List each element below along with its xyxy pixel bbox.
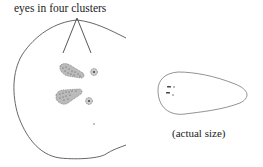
actual-size-caption: (actual size) [172, 127, 225, 139]
diagram-drawing [0, 0, 263, 167]
small-dot [93, 123, 95, 125]
eye-cluster-upper-round [91, 69, 98, 76]
actual-size-eye-marks [166, 86, 175, 96]
eye-cluster-lower-round [86, 98, 93, 105]
enlarged-head-outline [14, 20, 126, 159]
eye-cluster-lower-elongated [56, 89, 82, 104]
pointer-lines [63, 18, 91, 53]
eye-clusters-diagram: eyes in four clusters (actual size) [0, 0, 263, 167]
eye-cluster-upper-elongated [60, 64, 84, 78]
eyes-caption: eyes in four clusters [14, 2, 106, 14]
actual-size-body-outline [158, 72, 247, 114]
